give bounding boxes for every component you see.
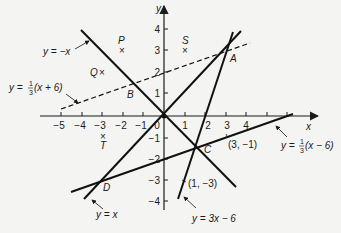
pointer-y-3x-minus-6 xyxy=(184,197,196,208)
svg-text:−5: −5 xyxy=(53,120,65,131)
pointer-y-x xyxy=(92,200,103,209)
label-y-neg-x: y = −x xyxy=(42,46,71,57)
point-c-label: C xyxy=(204,144,212,155)
pointer-y-neg-x xyxy=(75,41,89,49)
origin-point xyxy=(162,114,167,119)
label-y-third-x-minus-6: y = 1 3 (x − 6) xyxy=(280,138,334,154)
label-y-third-x-plus-6: y = 1 3 (x + 6) xyxy=(8,80,63,96)
label-y-3x-minus-6: y = 3x − 6 xyxy=(191,213,236,224)
svg-text:(x − 6): (x − 6) xyxy=(305,140,334,151)
svg-text:−1: −1 xyxy=(135,120,147,131)
svg-text:2: 2 xyxy=(205,120,211,131)
svg-text:−4: −4 xyxy=(149,196,161,207)
svg-text:y =: y = xyxy=(280,140,295,151)
svg-text:−2: −2 xyxy=(115,120,127,131)
svg-text:1: 1 xyxy=(300,138,304,145)
coordinate-diagram: −5 −4 −3 −2 −1 1 2 3 4 0 4 3 2 1 −1 −2 −… xyxy=(0,0,341,233)
x-axis-label: x xyxy=(305,121,312,132)
label-y-x: y = x xyxy=(95,209,118,220)
point-s-marker: × xyxy=(182,45,188,56)
annotation-1-neg3: (1, −3) xyxy=(188,178,217,189)
point-p-marker: × xyxy=(119,45,125,56)
y-axis-label: y xyxy=(155,3,162,14)
svg-text:−3: −3 xyxy=(149,175,161,186)
pointer-y-third-x-plus-6 xyxy=(66,94,78,103)
point-t-label: T xyxy=(100,140,107,151)
point-d-label: D xyxy=(103,182,110,193)
x-tick-labels: −5 −4 −3 −2 −1 1 2 3 4 0 xyxy=(53,120,249,131)
point-b-label: B xyxy=(127,89,134,100)
svg-text:−4: −4 xyxy=(74,120,86,131)
pointer-y-third-x-minus-6 xyxy=(276,126,287,137)
annotation-3-neg1: (3, −1) xyxy=(228,139,257,150)
point-q-label: Q xyxy=(90,67,98,78)
svg-text:1: 1 xyxy=(29,80,33,87)
point-q-marker: × xyxy=(99,67,105,78)
svg-text:−3: −3 xyxy=(94,120,106,131)
svg-text:y =: y = xyxy=(8,82,23,93)
svg-text:−1: −1 xyxy=(149,133,161,144)
svg-text:3: 3 xyxy=(154,45,160,56)
svg-text:3: 3 xyxy=(224,120,230,131)
svg-text:(x + 6): (x + 6) xyxy=(34,82,63,93)
point-a-label: A xyxy=(229,53,237,64)
svg-text:3: 3 xyxy=(29,89,33,96)
svg-text:3: 3 xyxy=(300,147,304,154)
svg-text:4: 4 xyxy=(154,24,160,35)
svg-text:1: 1 xyxy=(154,88,160,99)
svg-text:1: 1 xyxy=(182,120,188,131)
